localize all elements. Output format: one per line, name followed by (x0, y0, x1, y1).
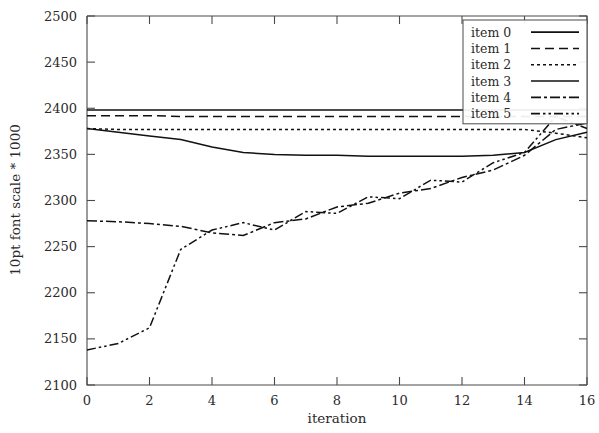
x-axis-title: iteration (308, 410, 367, 426)
y-tick-label: 2500 (44, 9, 77, 24)
y-tick-label: 2250 (44, 239, 77, 254)
chart-legend: item 0item 1item 2item 3item 4item 5 (463, 20, 587, 124)
y-tick-label: 2300 (44, 193, 77, 208)
y-tick-label: 2200 (44, 285, 77, 300)
x-axis-tick-labels: 0246810121416 (83, 393, 595, 408)
y-tick-label: 2350 (44, 147, 77, 162)
y-tick-label: 2150 (44, 331, 77, 346)
y-tick-label: 2400 (44, 101, 77, 116)
legend-label-4: item 4 (471, 90, 511, 105)
y-axis-tick-labels: 210021502200225023002350240024502500 (44, 9, 77, 393)
x-tick-label: 8 (333, 393, 341, 408)
legend-label-2: item 2 (471, 57, 511, 72)
chart-figure: 210021502200225023002350240024502500 024… (0, 0, 599, 433)
x-tick-label: 2 (145, 393, 153, 408)
series-line-item-4 (87, 123, 587, 236)
legend-label-5: item 5 (471, 106, 511, 121)
legend-label-1: item 1 (471, 41, 511, 56)
data-series-group (87, 110, 587, 350)
x-tick-label: 12 (454, 393, 471, 408)
y-axis-title: 10pt font scale * 1000 (7, 124, 23, 276)
legend-label-3: item 3 (471, 74, 511, 89)
series-line-item-2 (87, 129, 587, 138)
x-tick-label: 16 (579, 393, 596, 408)
line-chart: 210021502200225023002350240024502500 024… (0, 0, 599, 433)
y-tick-label: 2450 (44, 55, 77, 70)
legend-label-0: item 0 (471, 25, 511, 40)
x-tick-label: 10 (391, 393, 408, 408)
x-tick-label: 4 (208, 393, 216, 408)
series-line-item-3 (87, 129, 587, 157)
x-tick-label: 0 (83, 393, 91, 408)
series-line-item-5 (87, 117, 587, 350)
y-tick-label: 2100 (44, 378, 77, 393)
x-tick-label: 6 (270, 393, 278, 408)
x-tick-label: 14 (516, 393, 533, 408)
